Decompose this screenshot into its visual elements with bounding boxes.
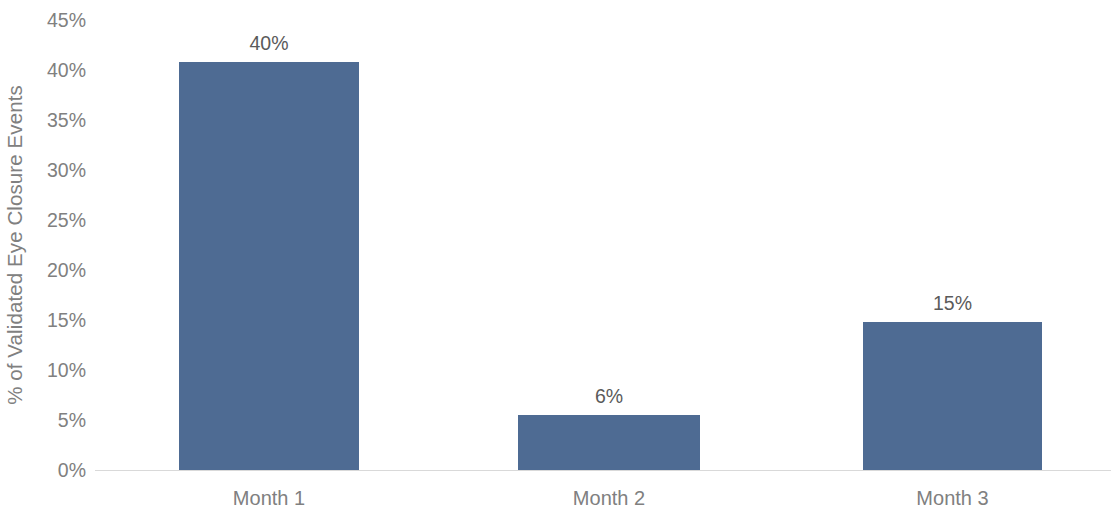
bar-chart: % of Validated Eye Closure Events 0%5%10…: [0, 0, 1120, 517]
bar-month-3[interactable]: [863, 322, 1042, 470]
x-axis-category-label-month-3: Month 3: [823, 487, 1082, 510]
bar-value-label-month-3: 15%: [863, 292, 1042, 315]
bar-month-1[interactable]: [179, 62, 359, 470]
x-axis-category-label-month-1: Month 1: [139, 487, 399, 510]
bar-month-2[interactable]: [518, 415, 700, 470]
bar-value-label-month-1: 40%: [179, 32, 359, 55]
plot-area: 40%Month 16%Month 215%Month 3: [0, 0, 1120, 517]
x-axis-category-label-month-2: Month 2: [478, 487, 740, 510]
bar-value-label-month-2: 6%: [518, 385, 700, 408]
x-axis-line: [95, 470, 1111, 471]
